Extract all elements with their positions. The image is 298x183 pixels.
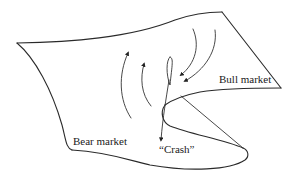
fold-upper-sheet <box>162 105 243 148</box>
fold-crease-line <box>181 96 243 148</box>
arrow-down-left <box>181 29 196 75</box>
surface-bull-bottom-edge <box>165 88 281 105</box>
surface-left-edge <box>17 43 72 150</box>
arrow-up-left <box>121 53 131 118</box>
crash-label: “Crash” <box>159 144 194 155</box>
arrow-down-right <box>185 30 215 81</box>
surface-top-edge <box>17 12 222 43</box>
bear-market-label: Bear market <box>73 136 127 147</box>
arrow-up-right <box>142 64 151 106</box>
cusp-surface-diagram <box>0 0 298 183</box>
crash-drop-arrow <box>161 57 172 140</box>
bull-market-label: Bull market <box>219 74 271 85</box>
